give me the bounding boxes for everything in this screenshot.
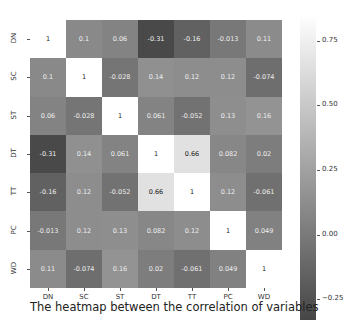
y-axis-label: WD	[10, 258, 18, 278]
x-tick	[120, 288, 121, 291]
heatmap-cell: 0.12	[66, 211, 102, 249]
heatmap-cell: -0.052	[102, 173, 138, 211]
heatmap-cell: 0.061	[138, 97, 174, 135]
heatmap-cell: 0.12	[210, 173, 246, 211]
heatmap-cell: 0.66	[174, 135, 210, 173]
y-axis-label: ST	[10, 105, 18, 125]
heatmap-cell: -0.013	[30, 211, 66, 249]
x-tick	[84, 288, 85, 291]
colorbar-tick	[317, 170, 320, 171]
x-tick	[228, 288, 229, 291]
y-axis-label: DN	[10, 28, 18, 48]
heatmap-cell: 1	[30, 20, 66, 58]
heatmap-cell: 0.16	[102, 250, 138, 288]
heatmap-cell: 0.12	[174, 58, 210, 96]
colorbar-tick-label: −0.25	[322, 294, 343, 302]
y-tick	[27, 39, 30, 40]
colorbar-tick-label: 0.00	[322, 230, 338, 238]
heatmap-cell: -0.061	[174, 250, 210, 288]
heatmap-cell: 0.12	[174, 211, 210, 249]
heatmap-cell: 1	[246, 250, 282, 288]
colorbar-tick-label: 0.75	[322, 36, 338, 44]
heatmap-cell: 0.11	[30, 250, 66, 288]
colorbar	[300, 15, 316, 320]
x-tick	[264, 288, 265, 291]
heatmap-cell: 0.082	[210, 135, 246, 173]
y-tick	[27, 77, 30, 78]
heatmap-cell: 0.1	[66, 20, 102, 58]
heatmap-cell: -0.31	[30, 135, 66, 173]
heatmap-cell: 1	[66, 58, 102, 96]
heatmap-cell: 0.02	[138, 250, 174, 288]
heatmap-cell: 0.082	[138, 211, 174, 249]
colorbar-tick-label: 0.50	[322, 100, 338, 108]
heatmap-cell: -0.028	[102, 58, 138, 96]
heatmap-cell: 0.13	[210, 97, 246, 135]
heatmap-cell: 1	[102, 97, 138, 135]
y-tick	[27, 269, 30, 270]
heatmap-cell: -0.052	[174, 97, 210, 135]
heatmap-cell: 1	[138, 135, 174, 173]
heatmap-cell: 0.049	[210, 250, 246, 288]
chart-title: The heatmap between the correlation of v…	[30, 300, 319, 314]
heatmap-cell: 0.14	[66, 135, 102, 173]
heatmap-cell: 0.66	[138, 173, 174, 211]
heatmap-grid: 10.10.06-0.31-0.16-0.0130.110.11-0.0280.…	[30, 20, 282, 288]
y-tick	[27, 154, 30, 155]
y-axis-label: TT	[10, 181, 18, 201]
heatmap-cell: 0.1	[30, 58, 66, 96]
heatmap-cell: -0.31	[138, 20, 174, 58]
y-tick	[27, 231, 30, 232]
y-axis-label: SC	[10, 66, 18, 86]
colorbar-tick	[317, 105, 320, 106]
heatmap-cell: 0.02	[246, 135, 282, 173]
heatmap-cell: 0.12	[66, 173, 102, 211]
y-axis-label: DT	[10, 143, 18, 163]
heatmap-cell: -0.16	[174, 20, 210, 58]
y-axis-label: PC	[10, 220, 18, 240]
y-tick	[27, 192, 30, 193]
heatmap-cell: 1	[210, 211, 246, 249]
heatmap-cell: 0.049	[246, 211, 282, 249]
heatmap-cell: 0.13	[102, 211, 138, 249]
heatmap-cell: -0.028	[66, 97, 102, 135]
heatmap-cell: 0.11	[246, 20, 282, 58]
heatmap-cell: 0.16	[246, 97, 282, 135]
x-tick	[192, 288, 193, 291]
heatmap-cell: -0.061	[246, 173, 282, 211]
heatmap-cell: 0.061	[102, 135, 138, 173]
colorbar-tick	[317, 41, 320, 42]
x-tick	[48, 288, 49, 291]
heatmap-cell: 0.12	[210, 58, 246, 96]
x-tick	[156, 288, 157, 291]
heatmap-cell: -0.16	[30, 173, 66, 211]
heatmap-cell: -0.074	[66, 250, 102, 288]
heatmap-cell: 0.06	[102, 20, 138, 58]
heatmap-cell: 0.14	[138, 58, 174, 96]
colorbar-tick-label: 0.25	[322, 165, 338, 173]
heatmap-cell: -0.074	[246, 58, 282, 96]
heatmap-cell: -0.013	[210, 20, 246, 58]
heatmap-cell: 0.06	[30, 97, 66, 135]
y-tick	[27, 116, 30, 117]
colorbar-tick	[317, 235, 320, 236]
heatmap-cell: 1	[174, 173, 210, 211]
